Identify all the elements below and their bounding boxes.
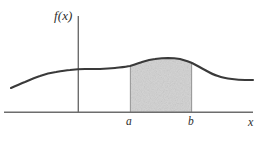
- y-axis-label: f(x): [54, 9, 72, 22]
- integral-figure: f(x) x a b: [0, 0, 263, 143]
- shaded-area-under-curve: [130, 58, 192, 112]
- shaded-area-group: [130, 58, 192, 112]
- upper-bound-label: b: [188, 116, 194, 128]
- x-axis-label: x: [248, 116, 253, 128]
- axes-group: [4, 16, 253, 112]
- lower-bound-label: a: [126, 116, 132, 128]
